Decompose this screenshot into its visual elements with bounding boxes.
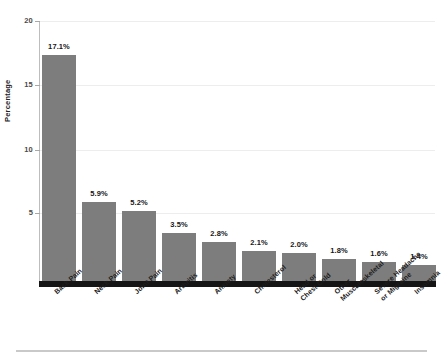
x-axis-labels: Back Pain Neck Pain Joint Pain Arthritis…: [39, 288, 435, 348]
y-tick-labels: 20 15 10 5: [0, 0, 33, 300]
bar-value-arthritis: 3.5%: [153, 220, 205, 229]
caption-separator-rule: [16, 350, 427, 352]
bar-slot-insomnia: 1.4%: [399, 21, 439, 285]
bar-slot-severe-headache-or-migraine: 1.6%: [359, 21, 399, 285]
bar-value-neck-pain: 5.9%: [73, 189, 125, 198]
bar-value-joint-pain: 5.2%: [113, 198, 165, 207]
bar-slot-other-musculoskeletal: 1.8%: [319, 21, 359, 285]
bar-slot-back-pain: 17.1%: [39, 21, 79, 285]
bar-value-back-pain: 17.1%: [33, 42, 85, 51]
bar-slot-joint-pain: 5.2%: [119, 21, 159, 285]
bar-value-anxiety: 2.8%: [193, 229, 245, 238]
bar-back-pain[interactable]: [42, 55, 76, 285]
y-tick-label-10: 10: [7, 145, 33, 154]
y-tick-label-5: 5: [7, 208, 33, 217]
y-axis-title: Percentage: [3, 80, 12, 122]
y-tick-label-20: 20: [7, 16, 33, 25]
figure-container: 20 15 10 5 Percentage 17.1% 5.9% 5.2% 3.…: [0, 0, 443, 361]
bar-slot-neck-pain: 5.9%: [79, 21, 119, 285]
bar-slot-arthritis: 3.5%: [159, 21, 199, 285]
figure-caption: [16, 355, 427, 361]
bars-layer: 17.1% 5.9% 5.2% 3.5% 2.8% 2.1% 2.0%: [39, 21, 435, 285]
